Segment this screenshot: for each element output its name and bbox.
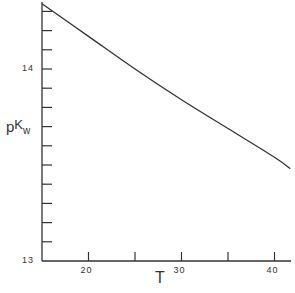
pkw-curve [42, 4, 290, 169]
y-label-k: K [14, 117, 23, 132]
x-tick-label: 30 [174, 265, 186, 275]
y-tick-label: 14 [22, 63, 34, 73]
x-tick-label: 40 [267, 265, 279, 275]
y-ticks [42, 11, 52, 241]
x-ticks [89, 252, 275, 261]
y-label-sub: w [23, 125, 30, 136]
y-tick-label: 13 [22, 255, 34, 265]
chart-canvas [0, 0, 295, 293]
x-tick-label: 20 [81, 265, 93, 275]
y-axis-label: pKw [6, 117, 30, 136]
x-axis-label: T [155, 269, 165, 287]
